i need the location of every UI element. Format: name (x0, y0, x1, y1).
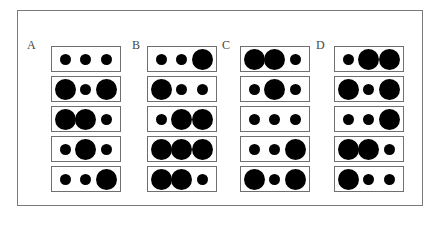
circle-large-icon (151, 139, 172, 160)
circle-large-icon (171, 109, 192, 130)
circle-large-icon (338, 79, 359, 100)
circle-large-icon (171, 139, 192, 160)
pattern-box-c-2 (240, 76, 310, 102)
circle-large-icon (151, 79, 172, 100)
circle-small-icon (249, 144, 260, 155)
pattern-box-b-4 (147, 136, 217, 162)
circle-small-icon (363, 84, 374, 95)
circle-large-icon (264, 49, 285, 70)
group-label-d: D (316, 39, 325, 51)
pattern-box-c-5 (240, 166, 310, 192)
circle-small-icon (156, 114, 167, 125)
circle-small-icon (60, 174, 71, 185)
circle-small-icon (269, 144, 280, 155)
circle-small-icon (290, 54, 301, 65)
circle-large-icon (75, 139, 96, 160)
pattern-box-a-1 (51, 46, 121, 72)
pattern-box-c-4 (240, 136, 310, 162)
group-label-c: C (222, 39, 230, 51)
circle-small-icon (269, 174, 280, 185)
circle-large-icon (75, 109, 96, 130)
circle-large-icon (192, 49, 213, 70)
circle-small-icon (197, 84, 208, 95)
pattern-box-a-2 (51, 76, 121, 102)
pattern-box-c-1 (240, 46, 310, 72)
pattern-box-a-3 (51, 106, 121, 132)
circle-small-icon (249, 114, 260, 125)
circle-small-icon (101, 114, 112, 125)
pattern-box-d-1 (334, 46, 404, 72)
circle-large-icon (244, 49, 265, 70)
circle-large-icon (244, 169, 265, 190)
circle-large-icon (96, 79, 117, 100)
pattern-box-d-5 (334, 166, 404, 192)
group-label-b: B (132, 39, 140, 51)
circle-small-icon (269, 114, 280, 125)
pattern-box-d-3 (334, 106, 404, 132)
circle-large-icon (379, 79, 400, 100)
circle-small-icon (60, 144, 71, 155)
circle-large-icon (358, 49, 379, 70)
pattern-box-b-5 (147, 166, 217, 192)
pattern-box-a-5 (51, 166, 121, 192)
pattern-box-a-4 (51, 136, 121, 162)
pattern-box-b-1 (147, 46, 217, 72)
circle-small-icon (384, 144, 395, 155)
circle-large-icon (151, 169, 172, 190)
pattern-box-b-2 (147, 76, 217, 102)
circle-small-icon (197, 174, 208, 185)
group-label-a: A (27, 39, 36, 51)
circle-small-icon (343, 54, 354, 65)
circle-small-icon (80, 174, 91, 185)
circle-large-icon (96, 169, 117, 190)
circle-large-icon (192, 139, 213, 160)
circle-large-icon (338, 139, 359, 160)
pattern-box-d-4 (334, 136, 404, 162)
circle-small-icon (156, 54, 167, 65)
circle-small-icon (176, 54, 187, 65)
circle-large-icon (55, 109, 76, 130)
circle-small-icon (80, 84, 91, 95)
circle-small-icon (176, 84, 187, 95)
pattern-box-d-2 (334, 76, 404, 102)
circle-large-icon (171, 169, 192, 190)
pattern-box-b-3 (147, 106, 217, 132)
circle-small-icon (290, 84, 301, 95)
circle-large-icon (338, 169, 359, 190)
circle-small-icon (363, 174, 374, 185)
circle-small-icon (384, 174, 395, 185)
circle-large-icon (379, 49, 400, 70)
circle-small-icon (101, 144, 112, 155)
circle-large-icon (358, 139, 379, 160)
circle-large-icon (285, 139, 306, 160)
circle-large-icon (55, 79, 76, 100)
circle-small-icon (101, 54, 112, 65)
circle-large-icon (285, 169, 306, 190)
circle-small-icon (60, 54, 71, 65)
circle-small-icon (290, 114, 301, 125)
circle-small-icon (343, 114, 354, 125)
circle-large-icon (264, 79, 285, 100)
circle-large-icon (192, 109, 213, 130)
circle-small-icon (363, 114, 374, 125)
circle-small-icon (80, 54, 91, 65)
pattern-box-c-3 (240, 106, 310, 132)
circle-large-icon (379, 109, 400, 130)
circle-small-icon (249, 84, 260, 95)
